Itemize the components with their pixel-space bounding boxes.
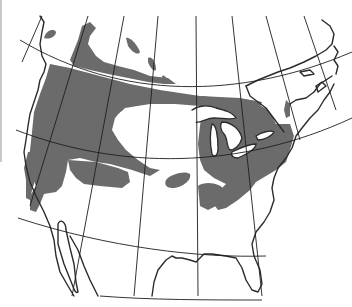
parallel-30	[100, 296, 262, 300]
range-north-spot-1	[44, 30, 56, 39]
range-map	[0, 0, 352, 307]
coast-labrador	[246, 20, 334, 86]
range-east-coast-patch	[284, 100, 290, 118]
coast-east-islands	[334, 46, 338, 74]
range-north-spot-3	[148, 58, 156, 71]
range-central-patch	[165, 172, 190, 188]
range-north-spot-2	[126, 38, 140, 54]
coast-newfoundland-inlet	[300, 70, 314, 76]
meridian-1	[22, 16, 42, 62]
